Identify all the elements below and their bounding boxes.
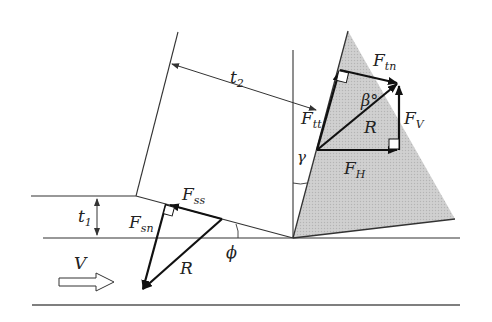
velocity-arrow [59,273,114,291]
velocity-label: V [74,253,88,273]
ftn-label: Ftn [372,50,396,73]
r-shear-label: R [179,258,193,278]
chip-back-face [136,32,178,196]
fss-label: Fss [181,184,205,207]
right-angle-marker-shear [163,205,174,216]
right-angle-marker-bottom [389,139,399,149]
fv-label: FV [403,108,425,131]
phi-label: ϕ [226,243,237,262]
t1-label: t1 [78,206,92,229]
t2-dimension-arrow [172,64,316,110]
fss-vector [170,205,222,219]
gamma-arc [293,183,307,184]
r-shear-vector [143,219,222,289]
gamma-label: γ [297,148,306,166]
t2-label: t2 [230,67,244,90]
fsn-vector [143,204,166,289]
ftt-label: Ftt [300,108,322,131]
fsn-label: Fsn [128,212,154,235]
cutting-force-diagram: t2 t1 Ftt Ftn FV FH R β° γ Fss Fsn R ϕ V [0,0,492,322]
phi-arc [236,224,238,238]
r-tool-label: R [363,117,377,137]
beta-label: β° [360,91,378,110]
right-angle-marker-top [337,71,349,83]
